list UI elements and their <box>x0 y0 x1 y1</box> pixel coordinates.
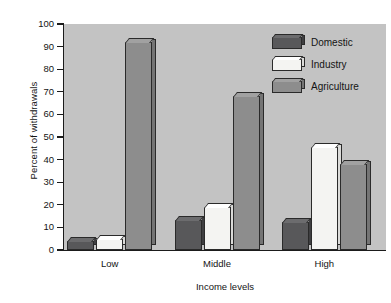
legend-item-domestic: Domestic <box>272 33 382 52</box>
y-axis-tick <box>57 227 64 228</box>
y-axis-tick <box>57 69 64 70</box>
y-axis-tick <box>57 249 64 250</box>
legend-item-industry: Industry <box>272 55 382 74</box>
y-axis-tick-label: 70 <box>14 87 54 97</box>
bar-agriculture-high <box>340 164 367 250</box>
y-axis-tick <box>57 182 64 183</box>
bar-top-face <box>311 143 340 148</box>
y-axis-tick-label: 100 <box>14 19 54 29</box>
bar-industry-low <box>96 239 123 250</box>
bar-side-face <box>152 39 156 245</box>
legend-swatch-top <box>272 78 303 82</box>
bar-domestic-low <box>67 241 94 250</box>
y-axis-tick <box>57 23 64 24</box>
legend-label-domestic: Domestic <box>311 37 353 48</box>
legend-swatch-top <box>272 56 303 60</box>
legend-swatch-side <box>302 79 305 89</box>
legend-item-agriculture: Agriculture <box>272 77 382 96</box>
y-axis-tick-label: 10 <box>14 222 54 232</box>
bar-domestic-high <box>282 222 309 250</box>
y-axis-tick-label: 0 <box>14 245 54 255</box>
x-axis-label-high: High <box>279 258 369 269</box>
bar-agriculture-middle <box>233 96 260 250</box>
bar-top-face <box>67 237 96 242</box>
y-axis-tick-label: 60 <box>14 109 54 119</box>
x-axis-title: Income levels <box>64 281 386 292</box>
bar-top-face <box>233 92 262 97</box>
legend-swatch-side <box>302 35 305 45</box>
bar-industry-high <box>311 147 338 250</box>
y-axis-tick <box>57 159 64 160</box>
y-axis-tick <box>57 46 64 47</box>
legend-label-industry: Industry <box>311 59 347 70</box>
bar-side-face <box>260 93 264 245</box>
legend-swatch-agriculture <box>272 81 302 93</box>
y-axis-tick-label: 50 <box>14 132 54 142</box>
bar-agriculture-low <box>125 42 152 250</box>
legend: DomesticIndustryAgriculture <box>272 33 382 99</box>
bar-industry-middle <box>204 207 231 250</box>
bar-top-face <box>204 203 233 208</box>
bar-top-face <box>340 160 369 165</box>
legend-swatch-domestic <box>272 37 302 49</box>
x-axis-label-low: Low <box>65 258 155 269</box>
y-axis-tick <box>57 204 64 205</box>
legend-swatch-top <box>272 34 303 38</box>
legend-swatch-side <box>302 57 305 67</box>
bar-top-face <box>282 218 311 223</box>
bar-chart: Percent of withdrawals 01020304050607080… <box>0 0 391 303</box>
bar-top-face <box>96 235 125 240</box>
y-axis-tick-label: 80 <box>14 64 54 74</box>
bar-top-face <box>175 216 204 221</box>
y-axis-tick <box>57 136 64 137</box>
x-axis-line <box>63 250 386 251</box>
bar-side-face <box>367 161 371 245</box>
y-axis-tick <box>57 114 64 115</box>
y-axis-tick-label: 40 <box>14 155 54 165</box>
y-axis-tick-label: 30 <box>14 177 54 187</box>
bar-top-face <box>125 38 154 43</box>
legend-swatch-industry <box>272 59 302 71</box>
y-axis-tick-label: 20 <box>14 200 54 210</box>
bar-domestic-middle <box>175 220 202 251</box>
y-axis-tick-label: 90 <box>14 42 54 52</box>
x-axis-label-middle: Middle <box>172 258 262 269</box>
legend-label-agriculture: Agriculture <box>311 81 359 92</box>
y-axis-tick <box>57 91 64 92</box>
